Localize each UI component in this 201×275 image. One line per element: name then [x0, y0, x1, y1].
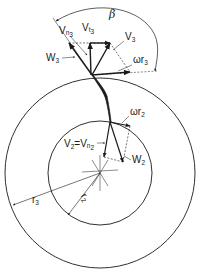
dash-omega-r3 — [110, 43, 130, 72]
vector-Vt3 — [90, 43, 91, 75]
dash-base — [104, 157, 123, 162]
svg-text:ωr3: ωr3 — [133, 54, 148, 66]
label-beta: β — [108, 8, 115, 21]
svg-text:V2=Vn2: V2=Vn2 — [64, 138, 94, 151]
label-r2: r2 — [78, 191, 92, 204]
label-V3: V3 — [113, 31, 136, 50]
svg-text:Vt3: Vt3 — [82, 22, 94, 35]
label-omega-r2: ωr2 — [122, 106, 145, 123]
label-Vn3: Vn3 — [59, 25, 73, 38]
svg-text:W3: W3 — [46, 52, 59, 64]
vector-V3 — [92, 43, 110, 75]
svg-text:ωr2: ωr2 — [130, 106, 145, 118]
vector-V2 — [104, 122, 110, 157]
impeller-velocity-diagram: β Vn3 Vt3 V3 W3 ωr3 ωr2 V2=Vn2 W2 r3 r2 — [0, 0, 201, 275]
label-V2-eq-Vn2: V2=Vn2 — [64, 138, 105, 151]
vector-omega-r3 — [92, 72, 130, 75]
vector-W2 — [110, 122, 123, 162]
outer-velocity-triangle — [69, 36, 130, 75]
dash-omega-r2 — [123, 126, 130, 162]
impeller-blade — [92, 75, 111, 122]
svg-text:V3: V3 — [125, 31, 136, 43]
svg-text:Vn3: Vn3 — [59, 25, 73, 38]
leader-Vn3 — [70, 36, 87, 55]
label-omega-r3: ωr3 — [118, 54, 148, 71]
label-Vt3: Vt3 — [82, 22, 94, 35]
radius-r3-line — [13, 173, 100, 205]
label-W3: W3 — [46, 52, 75, 64]
svg-text:r2: r2 — [78, 191, 92, 204]
label-W2: W2 — [124, 154, 145, 166]
svg-text:W2: W2 — [132, 154, 145, 166]
